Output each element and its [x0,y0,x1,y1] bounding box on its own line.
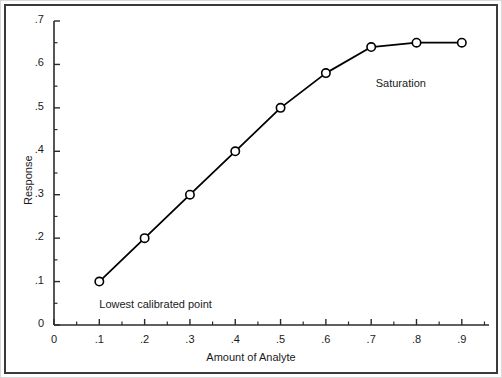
y-tick-label: 0 [20,317,44,329]
x-tick-label: .4 [223,333,247,345]
x-tick-label: .5 [269,333,293,345]
data-point-marker[interactable] [95,277,103,285]
x-tick-label: .1 [87,333,111,345]
data-point-marker[interactable] [367,43,375,51]
x-tick-label: .2 [133,333,157,345]
y-tick-label: .3 [20,187,44,199]
data-point-marker[interactable] [140,234,148,242]
data-point-marker[interactable] [322,69,330,77]
data-point-marker[interactable] [276,104,284,112]
y-tick-label: .5 [20,100,44,112]
x-tick-label: .9 [450,333,474,345]
y-tick-label: .4 [20,143,44,155]
chart-annotation: Lowest calibrated point [99,298,212,310]
y-tick-label: .6 [20,56,44,68]
x-tick-label: .3 [178,333,202,345]
x-tick-label: 0 [42,333,66,345]
y-tick-label: .7 [20,13,44,25]
data-point-marker[interactable] [458,39,466,47]
data-point-marker[interactable] [186,191,194,199]
y-tick-label: .2 [20,230,44,242]
x-tick-label: .8 [405,333,429,345]
data-point-marker[interactable] [231,147,239,155]
calibration-curve-plot [0,0,502,378]
y-tick-label: .1 [20,274,44,286]
x-tick-label: .7 [359,333,383,345]
x-tick-label: .6 [314,333,338,345]
figure-canvas: Amount of Analyte Response 0.1.2.3.4.5.6… [0,0,502,378]
x-axis-label: Amount of Analyte [0,351,502,363]
chart-annotation: Saturation [376,77,426,89]
data-point-marker[interactable] [412,39,420,47]
